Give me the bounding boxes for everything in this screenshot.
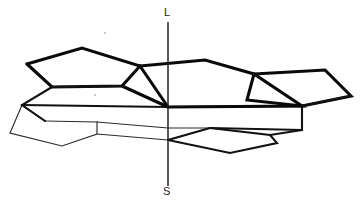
middle-right-ring-edge: [168, 106, 302, 130]
lower-right-ring-edge: [168, 128, 277, 153]
middle-left-ring-spoke: [22, 105, 168, 107]
figure-canvas: L S: [0, 0, 360, 209]
paper-speck: [104, 32, 106, 34]
far-right-ring-edge: [254, 70, 351, 106]
rear-layer-group: [10, 105, 210, 146]
axis-label-l: L: [164, 7, 170, 18]
upper-left-ring-base-edge: [52, 86, 122, 87]
lower-left-ring-edge: [10, 105, 97, 146]
middle-left-ring-edge: [22, 87, 52, 121]
axis-label-s: S: [163, 186, 171, 197]
lower-middle-ring-edge: [97, 128, 210, 140]
paper-speck: [94, 94, 96, 96]
upper-left-ring-lower-edge: [27, 64, 140, 87]
front-layer-group: [27, 48, 351, 107]
far-right-ring-lower-edge: [302, 96, 351, 106]
lower-middle-upper-edge: [97, 122, 210, 128]
ring-diagram-svg: [0, 0, 360, 209]
lower-right-ring-upper-edge: [168, 128, 210, 140]
